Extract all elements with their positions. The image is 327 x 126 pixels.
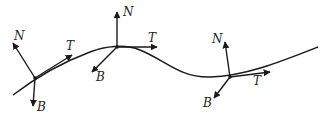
t-vector-label: T [148,31,157,45]
frenet-frame-3: NTB [202,32,270,110]
n-vector-label: N [122,5,134,19]
t-vector-arrow [35,55,72,78]
frenet-frame-2: NTB [92,5,157,84]
t-vector-label: T [253,74,262,88]
n-vector-arrow [13,43,35,78]
b-vector-arrow [33,78,35,106]
curve-point [115,45,119,49]
curve-point [228,75,232,79]
b-vector-label: B [36,100,46,114]
n-vector-label: N [211,32,223,46]
frenet-frame-1: NTB [13,29,75,114]
n-vector-label: N [13,29,25,43]
b-vector-arrow [214,77,230,98]
b-vector-label: B [202,96,212,110]
b-vector-arrow [92,47,117,72]
frenet-frame-diagram: NTBNTBNTB [0,0,327,126]
curve-point [33,76,37,80]
space-curve [13,46,318,95]
b-vector-label: B [95,70,105,84]
n-vector-arrow [225,42,230,77]
diagram-canvas: NTBNTBNTB [0,0,327,126]
t-vector-label: T [66,39,75,53]
